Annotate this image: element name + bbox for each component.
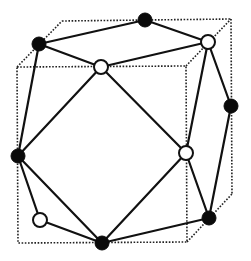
graph-edge <box>102 153 186 243</box>
black-vertex <box>138 13 152 27</box>
graph-edge <box>39 20 145 44</box>
graph-nodes <box>11 13 238 250</box>
white-vertex <box>201 35 215 49</box>
graph-edge <box>101 67 186 153</box>
graph-edges <box>18 20 231 243</box>
graph-edge <box>186 153 209 218</box>
graph-edge <box>209 106 231 218</box>
graph-edge <box>18 44 39 156</box>
graph-edge <box>102 218 209 243</box>
white-vertex <box>179 146 193 160</box>
graph-edge <box>186 42 208 153</box>
cube-graph-diagram <box>0 0 251 261</box>
graph-edge <box>18 156 40 220</box>
dotted-cube-wireframe <box>17 19 232 243</box>
graph-edge <box>18 156 102 243</box>
graph-edge <box>40 220 102 243</box>
black-vertex <box>224 99 238 113</box>
white-vertex <box>94 60 108 74</box>
graph-edge <box>208 42 231 106</box>
graph-edge <box>39 44 101 67</box>
graph-edge <box>145 20 208 42</box>
white-vertex <box>33 213 47 227</box>
black-vertex <box>32 37 46 51</box>
black-vertex <box>202 211 216 225</box>
graph-edge <box>18 67 101 156</box>
black-vertex <box>95 236 109 250</box>
graph-edge <box>101 42 208 67</box>
black-vertex <box>11 149 25 163</box>
